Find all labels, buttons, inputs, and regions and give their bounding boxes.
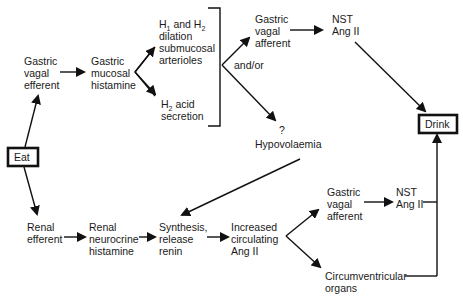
eat-node: Eat — [8, 148, 38, 166]
node-line: mucosal — [91, 67, 130, 79]
drink-node: Drink — [419, 115, 457, 133]
and-h-text: and H — [171, 18, 202, 30]
eat-label: Eat — [14, 151, 30, 163]
gastric-vagal-afferent-top-node: Gastric vagal afferent — [255, 13, 290, 49]
node-line: NST — [332, 13, 354, 25]
node-line: circulating — [231, 233, 278, 245]
synthesis-release-renin-node: Synthesis, release renin — [159, 221, 207, 257]
gastric-vagal-afferent-bottom-node: Gastric vagal afferent — [327, 186, 362, 222]
node-line: NST — [396, 186, 418, 198]
arrow-hypovolaemia-to-renin — [182, 159, 300, 215]
node-line: histamine — [91, 79, 136, 91]
node-line: Synthesis, — [159, 221, 207, 233]
acid-text: acid — [173, 98, 195, 110]
node-line: secretion — [161, 110, 204, 122]
h-text: H — [161, 98, 169, 110]
node-line: Renal — [27, 221, 54, 233]
arrow-eat-to-renal-efferent — [24, 167, 37, 214]
node-line: organs — [325, 282, 357, 294]
node-line: afferent — [255, 37, 290, 49]
gastric-mucosal-histamine-node: Gastric mucosal histamine — [91, 55, 136, 91]
bracket — [208, 8, 220, 126]
question-mark: ? — [279, 124, 285, 136]
node-line: Renal — [89, 221, 116, 233]
node-line: submucosal — [159, 42, 215, 54]
node-line: Gastric — [327, 186, 360, 198]
node-line: arterioles — [159, 54, 202, 66]
arrow-to-circumventricular-organs — [286, 236, 320, 267]
node-line: Ang II — [332, 25, 359, 37]
node-line: histamine — [89, 245, 134, 257]
node-line: neurocrine — [89, 233, 139, 245]
node-line: Gastric — [91, 55, 124, 67]
nst-ang-ii-bottom-node: NST Ang II — [396, 186, 423, 210]
fork-mucosal-histamine — [135, 47, 155, 96]
arrow-nst-top-to-drink — [355, 42, 425, 111]
node-line: efferent — [24, 79, 59, 91]
and-or-label: and/or — [234, 59, 264, 71]
gastric-vagal-efferent-node: Gastric vagal efferent — [24, 55, 59, 91]
node-line: afferent — [327, 210, 362, 222]
hypovolaemia-node: ? Hypovolaemia — [255, 124, 322, 150]
arrow-eat-to-gastric-vagal-efferent — [25, 96, 38, 147]
arrow-to-h1-h2-dilation — [135, 48, 154, 72]
node-line: release — [159, 233, 194, 245]
arrow-to-h2-acid-secretion — [135, 72, 155, 94]
node-line: Ang II — [396, 198, 423, 210]
node-line: Circumventricular — [325, 270, 407, 282]
arrow-to-vagal-afferent-bottom — [286, 210, 318, 236]
node-line: vagal — [327, 198, 352, 210]
h-text: H — [159, 18, 167, 30]
node-line: Hypovolaemia — [255, 138, 322, 150]
h1-h2-dilation-node: H1 and H2 dilation submucosal arterioles — [159, 18, 215, 66]
node-line: dilation — [159, 30, 192, 42]
node-line: vagal — [24, 67, 49, 79]
node-line: vagal — [255, 25, 280, 37]
diagram-canvas: Eat Drink Gastric vagal efferent Gastric… — [0, 0, 463, 303]
renal-efferent-node: Renal efferent — [27, 221, 62, 245]
node-line: efferent — [27, 233, 62, 245]
node-line: renin — [159, 245, 183, 257]
drink-label: Drink — [425, 118, 450, 130]
circumventricular-organs-node: Circumventricular organs — [325, 270, 407, 294]
subscript: 2 — [201, 25, 205, 32]
node-line: Gastric — [255, 13, 288, 25]
arrow-bracket-to-hypovolaemia — [222, 65, 275, 120]
increased-circulating-ang-ii-node: Increased circulating Ang II — [231, 221, 278, 257]
renal-neurocrine-histamine-node: Renal neurocrine histamine — [89, 221, 139, 257]
nst-ang-ii-top-node: NST Ang II — [332, 13, 359, 37]
node-line: Gastric — [24, 55, 57, 67]
h2-acid-secretion-node: H2 acid secretion — [161, 98, 204, 122]
node-line: Ang II — [231, 245, 258, 257]
node-line: Increased — [231, 221, 277, 233]
